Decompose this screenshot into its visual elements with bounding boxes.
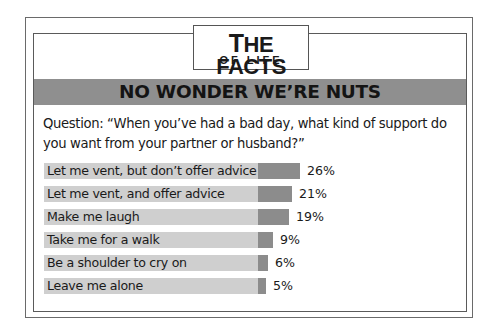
- bar-value: 5%: [273, 278, 293, 294]
- logo-subtitle: OF LIFE: [194, 54, 308, 66]
- bar-value: 9%: [280, 232, 300, 248]
- bar-label: Leave me alone: [47, 278, 143, 294]
- value-bar: [258, 163, 300, 179]
- survey-question: Question: “When you’ve had a bad day, wh…: [43, 114, 463, 154]
- bar-value: 19%: [296, 209, 324, 225]
- bar-label: Let me vent, and offer advice: [47, 186, 224, 202]
- value-bar: [258, 232, 273, 248]
- bar-label: Take me for a walk: [47, 232, 159, 248]
- logo-initial: T: [229, 29, 244, 57]
- bar-label: Be a shoulder to cry on: [47, 255, 187, 271]
- value-bar: [258, 209, 289, 225]
- bar-value: 6%: [275, 255, 295, 271]
- value-bar: [258, 255, 268, 271]
- bar-label: Make me laugh: [47, 209, 139, 225]
- value-bar: [258, 186, 292, 202]
- facts-of-life-logo: THE FACTS OF LIFE: [193, 25, 309, 70]
- title-banner: NO WONDER WE’RE NUTS: [34, 79, 466, 105]
- bar-value: 21%: [299, 186, 327, 202]
- chart-title: NO WONDER WE’RE NUTS: [119, 81, 381, 102]
- bar-label: Let me vent, but don’t offer advice: [47, 163, 257, 179]
- value-bar: [258, 278, 266, 294]
- bar-value: 26%: [307, 163, 335, 179]
